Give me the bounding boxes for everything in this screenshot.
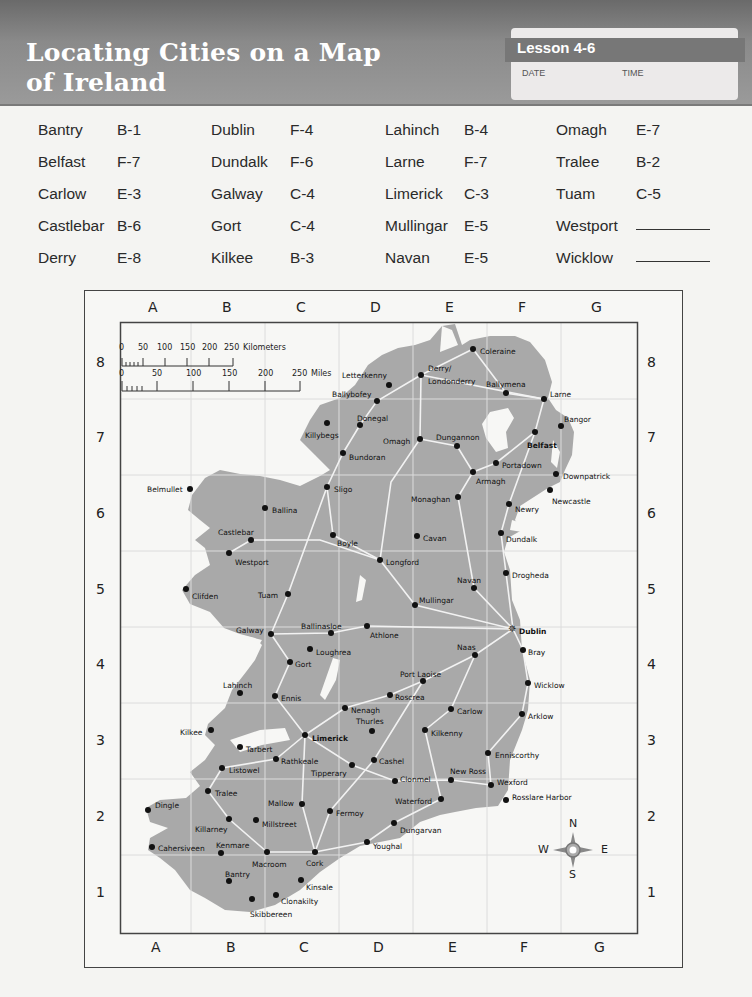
city-label: Clifden <box>192 592 218 601</box>
city-dot-icon <box>208 727 214 733</box>
city-label: Newcastle <box>552 497 591 506</box>
city-dot-icon <box>387 692 393 698</box>
city-label: Kenmare <box>216 841 249 850</box>
city-label: Cork <box>306 859 323 868</box>
city-dot-icon <box>327 808 333 814</box>
city-dot-icon <box>525 680 531 686</box>
city-dot-icon <box>218 850 224 856</box>
city-dot-icon <box>541 396 547 402</box>
city-label: Ballina <box>272 506 297 515</box>
city-dot-icon <box>237 744 243 750</box>
city-dot-icon <box>342 705 348 711</box>
city-label: Rosslare Harbor <box>512 793 572 802</box>
city-dot-icon <box>324 420 330 426</box>
city-dot-icon <box>520 647 526 653</box>
city-label: Wexford <box>497 778 528 787</box>
city-label: Belmullet <box>147 485 183 494</box>
city-dot-icon <box>364 623 370 629</box>
city-dot-icon <box>470 346 476 352</box>
city-label: Dingle <box>155 801 179 810</box>
city-dot-icon <box>145 807 151 813</box>
city-label: Macroom <box>252 860 287 869</box>
city-label: Bray <box>528 648 545 657</box>
compass-west: W <box>538 843 549 856</box>
city-dot-icon <box>493 460 499 466</box>
city-dot-icon <box>272 693 278 699</box>
city-label: Mallow <box>268 799 294 808</box>
city-dot-icon <box>448 706 454 712</box>
city-dot-icon <box>273 892 279 898</box>
city-dot-icon <box>374 398 380 404</box>
city-label: Arklow <box>528 712 553 721</box>
city-dot-icon <box>532 429 538 435</box>
city-label: New Ross <box>450 767 486 776</box>
city-dot-icon <box>392 778 398 784</box>
city-label: Athlone <box>370 631 399 640</box>
city-label: Cavan <box>423 534 447 543</box>
city-label: Monaghan <box>411 495 450 504</box>
city-dot-icon <box>547 487 553 493</box>
city-dot-icon <box>471 585 477 591</box>
city-label: Wicklow <box>534 681 565 690</box>
city-dot-icon <box>488 782 494 788</box>
city-dot-icon <box>485 750 491 756</box>
city-dot-icon <box>418 372 424 378</box>
city-label: Bangor <box>564 415 591 424</box>
city-dot-icon <box>149 844 155 850</box>
city-label: Armagh <box>476 477 506 486</box>
city-label: Waterford <box>395 797 432 806</box>
compass-rose: N S W E <box>528 820 618 880</box>
city-label: Killarney <box>195 825 228 834</box>
city-dot-icon <box>187 486 193 492</box>
city-label: Castlebar <box>218 528 254 537</box>
city-dot-icon <box>503 797 509 803</box>
city-dot-icon <box>264 849 270 855</box>
city-label: Killybegs <box>305 431 339 440</box>
city-label: Port Laoise <box>400 670 441 679</box>
city-label: Enniscorthy <box>495 751 539 760</box>
city-dot-icon <box>324 484 330 490</box>
city-label: Rathkeale <box>281 757 318 766</box>
city-dot-icon <box>298 877 304 883</box>
city-dot-icon <box>307 646 313 652</box>
city-dot-icon <box>498 530 504 536</box>
city-label: Drogheda <box>512 571 549 580</box>
city-label: Downpatrick <box>563 472 610 481</box>
city-dot-icon <box>273 756 279 762</box>
city-label: Ennis <box>281 694 301 703</box>
city-dot-icon <box>226 550 232 556</box>
city-dot-icon <box>299 801 305 807</box>
city-label: Dungarvan <box>400 826 442 835</box>
city-dot-icon <box>219 765 225 771</box>
city-label: Skibbereen <box>250 910 292 919</box>
city-label: Coleraine <box>480 347 516 356</box>
city-label: Naas <box>457 643 476 652</box>
city-dot-icon <box>262 505 268 511</box>
capital-label: Dublin <box>519 627 546 636</box>
city-dot-icon <box>503 570 509 576</box>
city-label: Gort <box>295 660 311 669</box>
city-dot-icon <box>386 382 392 388</box>
city-label: Portadown <box>502 461 542 470</box>
city-label: Limerick <box>312 734 348 743</box>
city-dot-icon <box>503 390 509 396</box>
city-label: Ballybofey <box>332 390 371 399</box>
city-label: Derry/ <box>428 364 451 373</box>
city-label: Tarbert <box>246 745 272 754</box>
city-label: Youghal <box>373 842 402 851</box>
city-dot-icon <box>340 450 346 456</box>
city-dot-icon <box>248 537 254 543</box>
compass-north: N <box>569 817 577 830</box>
city-label: Millstreet <box>262 820 297 829</box>
city-label: Sligo <box>334 485 352 494</box>
city-label: Clonakilty <box>281 897 318 906</box>
city-dot-icon <box>371 757 377 763</box>
city-label: Roscrea <box>395 693 425 702</box>
city-dot-icon <box>302 732 308 738</box>
city-dot-icon <box>287 659 293 665</box>
city-dot-icon <box>506 501 512 507</box>
city-label: Lahinch <box>223 681 252 690</box>
city-label: Fermoy <box>336 809 364 818</box>
city-dot-icon <box>448 777 454 783</box>
city-dot-icon <box>312 849 318 855</box>
